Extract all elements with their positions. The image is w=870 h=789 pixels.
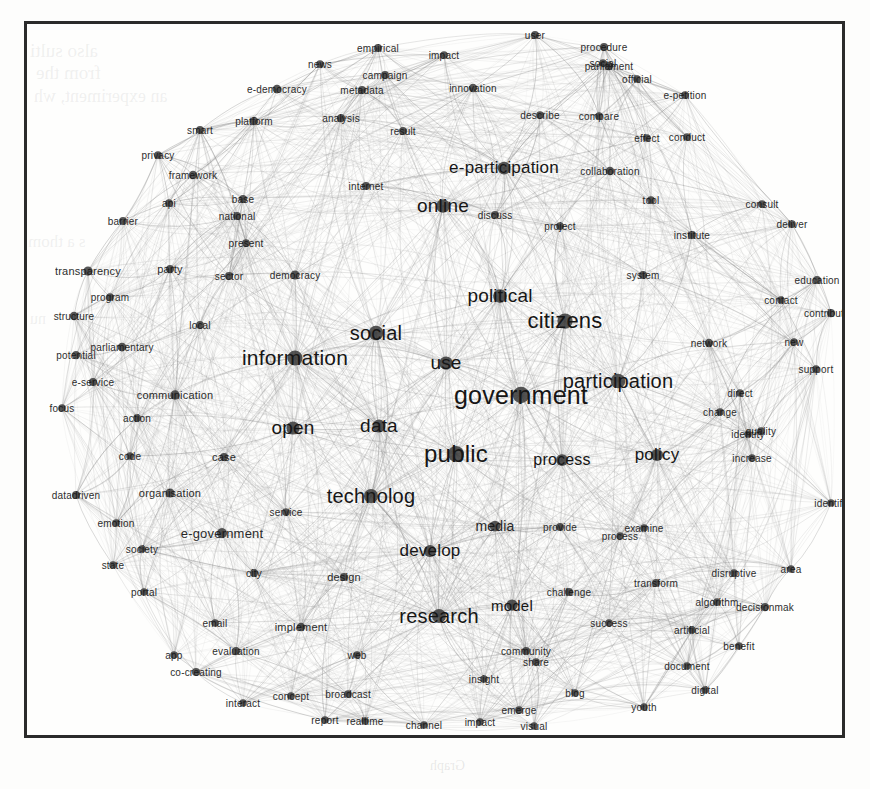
- network-node[interactable]: [640, 703, 647, 710]
- network-node[interactable]: [109, 561, 117, 569]
- network-node[interactable]: [777, 296, 785, 304]
- network-node[interactable]: [225, 272, 233, 280]
- network-node[interactable]: [730, 569, 738, 577]
- network-node[interactable]: [424, 545, 436, 557]
- network-node[interactable]: [297, 623, 306, 632]
- network-node[interactable]: [744, 430, 751, 437]
- network-node[interactable]: [683, 133, 691, 141]
- network-node[interactable]: [813, 276, 821, 284]
- network-node[interactable]: [358, 86, 366, 94]
- network-node[interactable]: [790, 338, 798, 346]
- network-node[interactable]: [287, 692, 295, 700]
- network-node[interactable]: [531, 31, 539, 39]
- network-node[interactable]: [716, 408, 724, 416]
- network-node[interactable]: [506, 599, 517, 610]
- network-node[interactable]: [556, 454, 568, 466]
- network-node[interactable]: [480, 675, 487, 682]
- network-node[interactable]: [381, 71, 389, 79]
- network-node[interactable]: [83, 266, 92, 275]
- network-node[interactable]: [513, 387, 530, 404]
- network-node[interactable]: [170, 390, 180, 400]
- network-node[interactable]: [735, 642, 742, 649]
- network-node[interactable]: [565, 588, 573, 596]
- network-node[interactable]: [515, 706, 523, 714]
- network-node[interactable]: [420, 721, 427, 728]
- network-node[interactable]: [605, 619, 613, 627]
- network-node[interactable]: [242, 239, 250, 247]
- network-node[interactable]: [106, 293, 114, 301]
- network-node[interactable]: [652, 579, 660, 587]
- network-node[interactable]: [556, 222, 564, 230]
- network-node[interactable]: [491, 211, 499, 219]
- network-node[interactable]: [288, 351, 303, 366]
- network-node[interactable]: [211, 619, 219, 627]
- network-node[interactable]: [651, 449, 663, 461]
- network-node[interactable]: [476, 718, 483, 725]
- network-node[interactable]: [189, 171, 198, 180]
- network-node[interactable]: [522, 647, 530, 655]
- network-node[interactable]: [600, 43, 608, 51]
- network-node[interactable]: [344, 690, 352, 698]
- network-node[interactable]: [273, 85, 282, 94]
- network-node[interactable]: [683, 662, 691, 670]
- network-node[interactable]: [361, 717, 368, 724]
- network-node[interactable]: [72, 491, 80, 499]
- network-node[interactable]: [282, 508, 290, 516]
- network-node[interactable]: [165, 488, 174, 497]
- network-node[interactable]: [321, 716, 329, 724]
- network-node[interactable]: [233, 212, 241, 220]
- network-node[interactable]: [530, 722, 537, 729]
- network-node[interactable]: [640, 524, 648, 532]
- network-node[interactable]: [316, 60, 324, 68]
- network-node[interactable]: [192, 668, 200, 676]
- network-node[interactable]: [239, 699, 247, 707]
- network-node[interactable]: [291, 271, 300, 280]
- network-node[interactable]: [72, 351, 80, 359]
- network-node[interactable]: [536, 111, 544, 119]
- network-node[interactable]: [118, 343, 127, 352]
- network-node[interactable]: [58, 404, 66, 412]
- network-node[interactable]: [440, 51, 448, 59]
- network-node[interactable]: [599, 59, 607, 67]
- network-node[interactable]: [373, 420, 386, 433]
- network-node[interactable]: [787, 565, 795, 573]
- network-node[interactable]: [250, 117, 259, 126]
- network-node[interactable]: [469, 84, 477, 92]
- network-node[interactable]: [532, 658, 540, 666]
- network-node[interactable]: [633, 75, 641, 83]
- network-node[interactable]: [705, 339, 713, 347]
- network-node[interactable]: [616, 532, 623, 539]
- network-node[interactable]: [611, 374, 626, 389]
- network-node[interactable]: [119, 217, 127, 225]
- network-node[interactable]: [340, 573, 348, 581]
- network-node[interactable]: [170, 651, 178, 659]
- network-node[interactable]: [647, 196, 655, 204]
- network-node[interactable]: [757, 427, 765, 435]
- network-node[interactable]: [827, 499, 835, 507]
- network-node[interactable]: [761, 603, 769, 611]
- network-node[interactable]: [606, 167, 615, 176]
- network-node[interactable]: [369, 326, 384, 341]
- network-node[interactable]: [138, 545, 146, 553]
- network-node[interactable]: [112, 519, 120, 527]
- network-node[interactable]: [812, 365, 820, 373]
- network-node[interactable]: [701, 686, 708, 693]
- network-node[interactable]: [232, 647, 240, 655]
- network-node[interactable]: [220, 453, 228, 461]
- network-node[interactable]: [140, 588, 148, 596]
- network-node[interactable]: [286, 421, 299, 434]
- network-node[interactable]: [595, 112, 603, 120]
- network-node[interactable]: [337, 114, 345, 122]
- network-node[interactable]: [196, 321, 204, 329]
- network-node[interactable]: [748, 454, 756, 462]
- network-node[interactable]: [736, 389, 744, 397]
- network-node[interactable]: [217, 528, 227, 538]
- network-node[interactable]: [374, 44, 382, 52]
- network-node[interactable]: [643, 134, 651, 142]
- network-node[interactable]: [639, 271, 647, 279]
- network-node[interactable]: [681, 91, 689, 99]
- network-node[interactable]: [166, 265, 174, 273]
- network-node[interactable]: [126, 452, 134, 460]
- network-node[interactable]: [713, 598, 721, 606]
- network-node[interactable]: [788, 220, 796, 228]
